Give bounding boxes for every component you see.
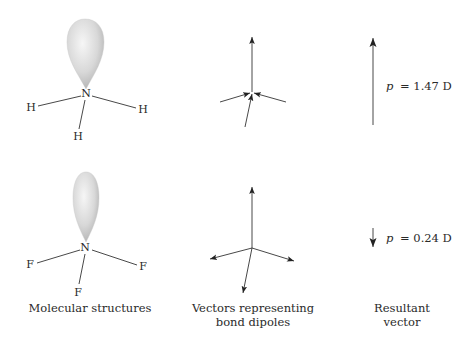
- bond-n-h-right: [92, 96, 136, 108]
- atom-h-left: H: [26, 101, 36, 114]
- atom-n: N: [81, 87, 91, 100]
- bond-n-h-bottom: [79, 100, 85, 129]
- bond-vector-right: [254, 93, 286, 102]
- dipole-value: = 0.24 D: [400, 231, 452, 245]
- lone-pair-lobe: [73, 172, 99, 242]
- nh3-structure: N H H H: [26, 19, 148, 143]
- dipole-diagram: N H H H p = 1.47 D N F F F: [0, 0, 456, 347]
- bond-n-f-left: [37, 250, 80, 263]
- bond-vector-right: [252, 248, 294, 261]
- lone-pair-lobe: [67, 19, 104, 89]
- atom-n: N: [80, 241, 90, 254]
- dipole-value: = 1.47 D: [400, 79, 452, 93]
- dipole-symbol: p: [386, 231, 394, 245]
- bond-vector-left: [210, 248, 252, 259]
- nf3-structure: N F F F: [26, 172, 147, 299]
- caption-resultant-line1: Resultant: [374, 301, 430, 315]
- bond-vector-bottom: [243, 248, 252, 293]
- bond-vector-bottom: [245, 94, 252, 127]
- atom-f-bottom: F: [74, 286, 82, 299]
- bond-n-f-bottom: [79, 254, 85, 284]
- atom-h-bottom: H: [73, 130, 83, 143]
- nf3-resultant: p = 0.24 D: [373, 228, 452, 247]
- dipole-moment-label: p = 0.24 D: [386, 231, 452, 245]
- dipole-moment-label: p = 1.47 D: [386, 79, 452, 93]
- caption-vectors-line2: bond dipoles: [216, 315, 291, 329]
- nh3-resultant: p = 1.47 D: [373, 38, 452, 125]
- nh3-bond-dipole-vectors: [220, 37, 286, 127]
- atom-f-left: F: [26, 258, 34, 271]
- atom-h-right: H: [138, 103, 148, 116]
- dipole-symbol: p: [386, 79, 394, 93]
- bond-vector-left: [220, 93, 250, 102]
- caption-resultant-line2: vector: [383, 315, 421, 329]
- atom-f-right: F: [139, 260, 147, 273]
- bond-n-h-left: [38, 96, 81, 106]
- bond-n-f-right: [92, 250, 137, 265]
- caption-vectors-line1: Vectors representing: [191, 301, 315, 315]
- caption-molecular-structures: Molecular structures: [29, 301, 152, 315]
- diagram-canvas: N H H H p = 1.47 D N F F F: [0, 0, 456, 347]
- nf3-bond-dipole-vectors: [210, 187, 294, 293]
